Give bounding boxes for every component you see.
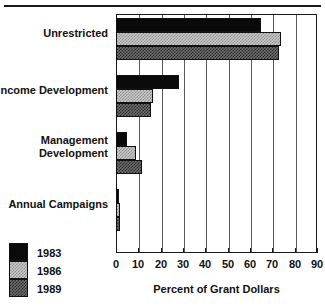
legend-label-1986: 1986 xyxy=(37,265,61,277)
x-tick-label: 60 xyxy=(244,258,256,270)
x-tick-label: 90 xyxy=(311,258,323,270)
x-tick-label: 70 xyxy=(266,258,278,270)
legend-label-1983: 1983 xyxy=(37,247,61,259)
gridline xyxy=(251,15,252,252)
x-tick-mark xyxy=(116,248,117,253)
gridline xyxy=(273,15,274,252)
x-tick-label: 20 xyxy=(155,258,167,270)
x-tick-label: 30 xyxy=(177,258,189,270)
category-label-unrestricted: Unrestricted xyxy=(43,27,108,40)
gridline xyxy=(184,15,185,252)
category-label-management-development: Development xyxy=(39,147,108,160)
x-tick-mark xyxy=(272,248,273,253)
gridline xyxy=(296,15,297,252)
legend-swatch-1986 xyxy=(9,261,28,279)
gridline xyxy=(162,15,163,252)
x-tick-mark xyxy=(205,248,206,253)
gridline xyxy=(206,15,207,252)
legend-label-1989: 1989 xyxy=(37,283,61,295)
chart-legend: 198319861989 xyxy=(9,243,104,300)
x-tick-label: 50 xyxy=(222,258,234,270)
x-tick-label: 0 xyxy=(113,258,119,270)
x-axis-title: Percent of Grant Dollars xyxy=(116,283,317,295)
category-label-income-development: Income Development xyxy=(0,84,108,97)
gridline xyxy=(229,15,230,252)
bar-chart-figure: UnrestrictedIncome DevelopmentManagement… xyxy=(0,0,325,307)
x-tick-label: 80 xyxy=(289,258,301,270)
x-tick-mark xyxy=(138,248,139,253)
x-tick-mark xyxy=(161,248,162,253)
x-tick-mark xyxy=(250,248,251,253)
category-label-annual-campaigns: Annual Campaigns xyxy=(8,198,108,211)
legend-swatch-1983 xyxy=(9,243,28,261)
category-label-management-development: Management xyxy=(41,134,108,147)
x-tick-mark xyxy=(295,248,296,253)
x-tick-label: 10 xyxy=(132,258,144,270)
x-tick-label: 40 xyxy=(199,258,211,270)
x-tick-mark xyxy=(317,248,318,253)
x-tick-mark xyxy=(183,248,184,253)
legend-swatch-1989 xyxy=(9,279,28,297)
plot-area xyxy=(116,14,317,253)
x-tick-mark xyxy=(228,248,229,253)
gridline xyxy=(139,15,140,252)
top-divider-rule xyxy=(4,5,321,7)
